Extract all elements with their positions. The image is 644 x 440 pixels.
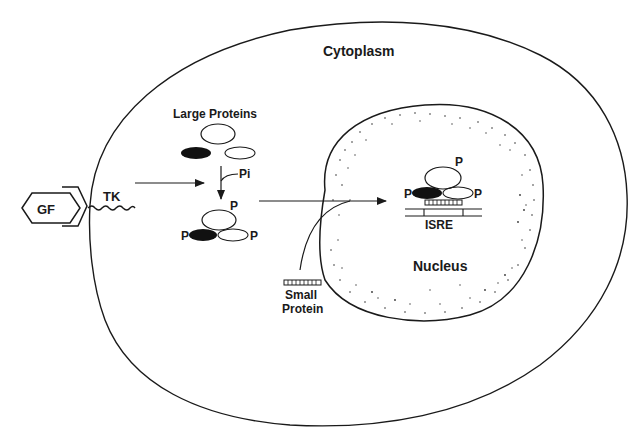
large-proteins xyxy=(181,124,255,159)
tk-label: TK xyxy=(103,189,121,204)
tk-wavy-line xyxy=(88,206,135,210)
pi-label: Pi xyxy=(239,167,250,181)
nucleus-label: Nucleus xyxy=(413,258,468,274)
small-protein: Small Protein xyxy=(282,280,323,316)
cytoplasm-label: Cytoplasm xyxy=(323,43,395,59)
nucleus xyxy=(320,104,544,320)
cell-membrane xyxy=(90,22,628,426)
phospho-top-label: P xyxy=(230,199,238,213)
phospho-right-label: P xyxy=(250,229,258,243)
nuclear-complex: P P P ISRE xyxy=(404,155,482,232)
protein-label: Protein xyxy=(282,302,323,316)
large-proteins-label: Large Proteins xyxy=(173,107,257,121)
pathway-diagram: Cytoplasm GF TK Large Proteins Pi P P P xyxy=(0,0,644,440)
nuc-phospho-right-label: P xyxy=(474,187,482,201)
nuc-phospho-top-label: P xyxy=(455,155,463,169)
nuc-phospho-left-label: P xyxy=(404,187,412,201)
small-label: Small xyxy=(285,288,317,302)
isre-label: ISRE xyxy=(425,218,453,232)
pi-branch xyxy=(221,174,238,181)
phospho-left-label: P xyxy=(181,229,189,243)
phosphorylated-complex: P P P xyxy=(181,199,258,243)
small-protein-arrow xyxy=(300,201,350,270)
gf-label: GF xyxy=(37,202,55,217)
growth-factor: GF xyxy=(22,193,80,223)
